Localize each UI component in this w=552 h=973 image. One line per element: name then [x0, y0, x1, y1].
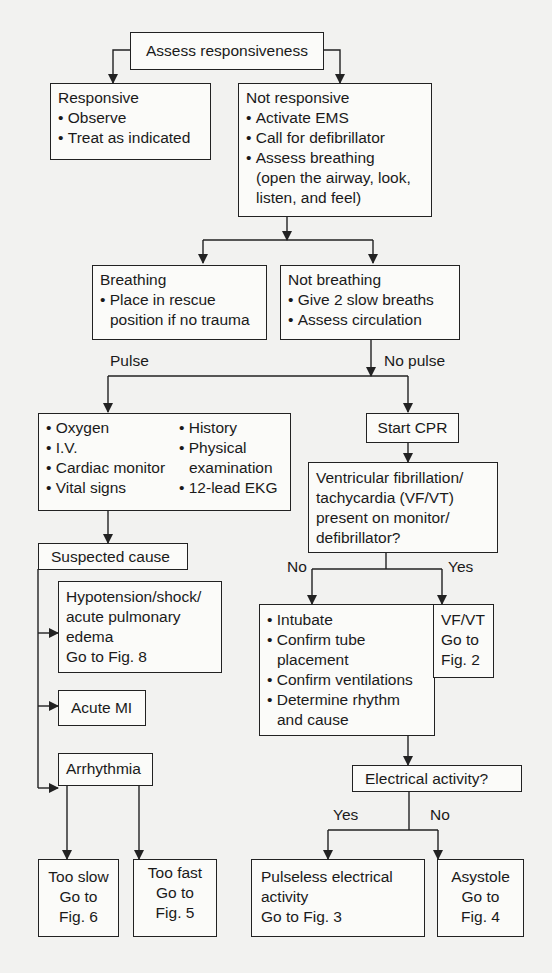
vf-question-line: defibrillator? [316, 528, 490, 548]
pea-line: Pulseless electrical [261, 867, 417, 887]
responsive-title: Responsive [58, 88, 203, 108]
vf-question-line: tachycardia (VF/VT) [316, 488, 490, 508]
assess-title: Assess responsiveness [138, 41, 316, 61]
too-slow-line: Go to [41, 887, 116, 907]
electrical-activity-title: Electrical activity? [365, 769, 514, 789]
acute-mi-title: Acute MI [71, 698, 138, 718]
not-responsive-item: Assess breathing [246, 148, 424, 168]
pulse-action: Cardiac monitor [46, 458, 165, 478]
label-yes-ea: Yes [333, 806, 358, 824]
suspected-cause-title: Suspected cause [51, 547, 180, 567]
not-responsive-note: listen, and feel) [246, 188, 424, 208]
label-yes-vf: Yes [448, 558, 473, 576]
vfvt-box: VF/VT Go to Fig. 2 [433, 604, 494, 678]
hypotension-box: Hypotension/shock/ acute pulmonary edema… [58, 581, 222, 673]
breathing-item: Place in rescue [100, 290, 259, 310]
intubate-item: Intubate [267, 610, 427, 630]
arrhythmia-box: Arrhythmia [58, 753, 153, 786]
acute-mi-box: Acute MI [58, 690, 146, 726]
assess-responsiveness-box: Assess responsiveness [130, 32, 324, 70]
asystole-line: Fig. 4 [440, 907, 521, 927]
hypotension-line: Hypotension/shock/ [66, 587, 214, 607]
breathing-box: Breathing Place in rescue position if no… [92, 265, 267, 340]
arrhythmia-title: Arrhythmia [66, 759, 145, 779]
too-slow-box: Too slow Go to Fig. 6 [38, 859, 119, 937]
not-breathing-title: Not breathing [288, 270, 452, 290]
pea-box: Pulseless electrical activity Go to Fig.… [251, 859, 425, 937]
vf-question-line: present on monitor/ [316, 508, 490, 528]
pulse-action: History [179, 418, 277, 438]
vf-question-line: Ventricular fibrillation/ [316, 468, 490, 488]
not-breathing-item: Assess circulation [288, 310, 452, 330]
too-slow-line: Fig. 6 [41, 907, 116, 927]
pulse-action: Physical [179, 438, 277, 458]
not-breathing-box: Not breathing Give 2 slow breaths Assess… [280, 265, 460, 340]
not-responsive-title: Not responsive [246, 88, 424, 108]
not-responsive-item: Call for defibrillator [246, 128, 424, 148]
too-fast-box: Too fast Go to Fig. 5 [133, 859, 217, 937]
intubate-box: Intubate Confirm tube placement Confirm … [259, 604, 435, 736]
pea-line: Go to Fig. 3 [261, 907, 417, 927]
vfvt-line: Go to [441, 630, 486, 650]
suspected-cause-box: Suspected cause [38, 543, 188, 570]
asystole-line: Go to [440, 887, 521, 907]
electrical-activity-box: Electrical activity? [352, 765, 522, 792]
hypotension-line: edema [66, 627, 214, 647]
label-no-pulse: No pulse [384, 352, 445, 370]
pulse-actions-box: Oxygen I.V. Cardiac monitor Vital signs … [38, 413, 291, 511]
start-cpr-title: Start CPR [374, 418, 451, 438]
pea-line: activity [261, 887, 417, 907]
pulse-action: Vital signs [46, 478, 165, 498]
intubate-item: Determine rhythm [267, 690, 427, 710]
hypotension-line: acute pulmonary [66, 607, 214, 627]
vf-question-box: Ventricular fibrillation/ tachycardia (V… [308, 462, 498, 553]
label-pulse: Pulse [110, 352, 149, 370]
asystole-line: Asystole [440, 867, 521, 887]
vfvt-line: VF/VT [441, 610, 486, 630]
not-responsive-note: (open the airway, look, [246, 168, 424, 188]
not-breathing-item: Give 2 slow breaths [288, 290, 452, 310]
too-fast-line: Too fast [136, 863, 214, 883]
breathing-title: Breathing [100, 270, 259, 290]
intubate-item: Confirm tube [267, 630, 427, 650]
intubate-item-cont: and cause [267, 710, 427, 730]
label-no-vf: No [287, 558, 307, 576]
start-cpr-box: Start CPR [366, 413, 459, 443]
responsive-item: Treat as indicated [58, 128, 203, 148]
breathing-item-cont: position if no trauma [100, 310, 259, 330]
not-responsive-item: Activate EMS [246, 108, 424, 128]
pulse-action: 12-lead EKG [179, 478, 277, 498]
pulse-action: I.V. [46, 438, 165, 458]
too-slow-line: Too slow [41, 867, 116, 887]
asystole-box: Asystole Go to Fig. 4 [437, 859, 524, 937]
intubate-item-cont: placement [267, 650, 427, 670]
label-no-ea: No [430, 806, 450, 824]
pulse-action-cont: examination [179, 458, 277, 478]
too-fast-line: Fig. 5 [136, 903, 214, 923]
responsive-item: Observe [58, 108, 203, 128]
intubate-item: Confirm ventilations [267, 670, 427, 690]
too-fast-line: Go to [136, 883, 214, 903]
pulse-action: Oxygen [46, 418, 165, 438]
vfvt-line: Fig. 2 [441, 650, 486, 670]
hypotension-line: Go to Fig. 8 [66, 647, 214, 667]
not-responsive-box: Not responsive Activate EMS Call for def… [238, 83, 432, 217]
responsive-box: Responsive Observe Treat as indicated [50, 83, 211, 160]
